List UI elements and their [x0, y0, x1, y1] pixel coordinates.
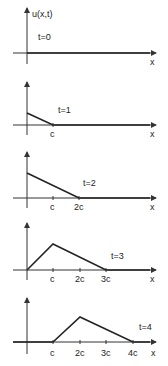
panel-t4: c 2c 3c 4c t=4 x [13, 298, 156, 358]
panel-t3: c 2c 3c t=3 x [13, 223, 156, 284]
time-label: t=3 [111, 251, 124, 261]
tick-label-c: c [50, 129, 55, 139]
time-label: t=4 [139, 322, 152, 332]
panel-t2: c 2c t=2 x [13, 152, 156, 212]
tick-label-c: c [50, 202, 55, 212]
panel-t1: c t=1 x [13, 82, 156, 139]
tick-label-2c: 2c [74, 202, 84, 212]
profile-curve [27, 113, 150, 125]
panel-t0: u(x,t) t=0 x [13, 8, 156, 67]
tick-label-c: c [50, 348, 55, 358]
tick-label-4c: 4c [128, 348, 138, 358]
x-axis-label: x [150, 274, 155, 284]
y-axis-label: u(x,t) [32, 9, 53, 19]
wave-propagation-diagram: u(x,t) t=0 x c t=1 x c 2c t=2 x c 2c 3c … [0, 0, 168, 366]
time-label: t=1 [58, 105, 71, 115]
tick-label-2c: 2c [75, 274, 85, 284]
x-axis-label: x [150, 202, 155, 212]
tick-label-3c: 3c [101, 274, 111, 284]
x-axis-label: x [151, 348, 156, 358]
time-label: t=0 [38, 32, 51, 42]
x-axis-label: x [150, 57, 155, 67]
profile-curve [13, 317, 150, 342]
tick-label-c: c [50, 274, 55, 284]
tick-label-3c: 3c [101, 348, 111, 358]
time-label: t=2 [83, 178, 96, 188]
x-axis-label: x [150, 129, 155, 139]
profile-curve [27, 244, 150, 270]
tick-label-2c: 2c [75, 348, 85, 358]
